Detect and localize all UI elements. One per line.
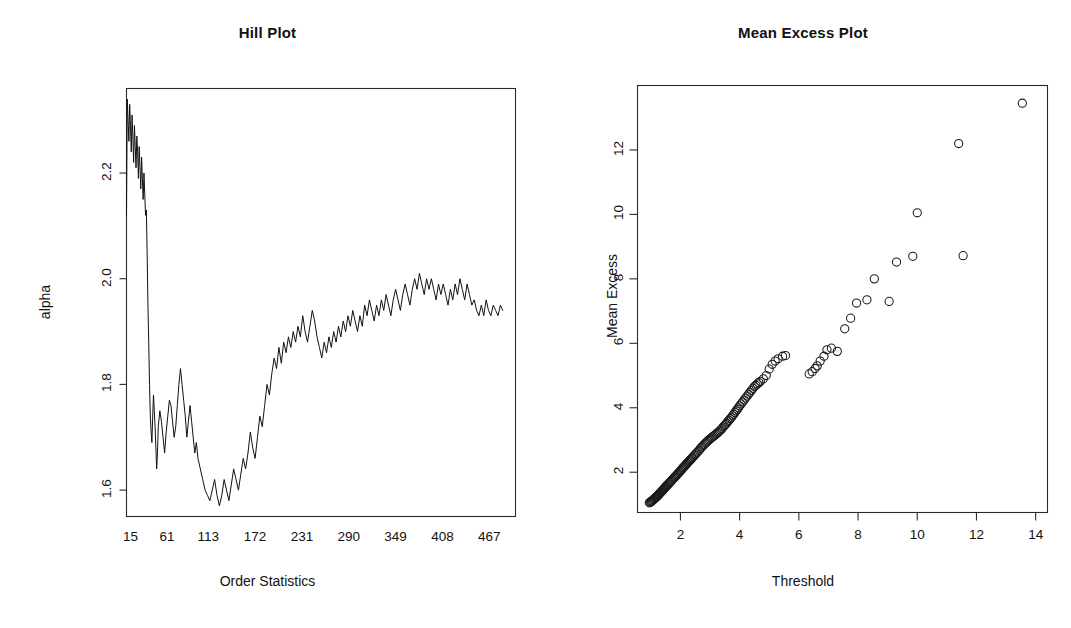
data-point <box>1018 99 1026 107</box>
tick-label: 4 <box>715 527 765 542</box>
tick-label: 12 <box>610 128 625 168</box>
data-point <box>852 299 860 307</box>
data-point <box>955 139 963 147</box>
mean-excess-plot-x-tickmarks <box>680 513 1035 521</box>
tick-label: 6 <box>774 527 824 542</box>
tick-label: 8 <box>833 527 883 542</box>
data-point <box>959 252 967 260</box>
tick-label: 4 <box>610 386 625 426</box>
tick-label: 1.6 <box>98 466 113 512</box>
data-point <box>913 209 921 217</box>
mean-excess-plot-points <box>645 99 1026 507</box>
panel-hill-plot: Hill Plot alpha Order Statistics 1.61.82… <box>0 0 535 628</box>
tick-label: 2 <box>655 527 705 542</box>
tick-label: 8 <box>610 257 625 297</box>
tick-label: 10 <box>610 193 625 233</box>
data-point <box>813 362 821 370</box>
tick-label: 2.0 <box>98 254 113 300</box>
data-point <box>885 297 893 305</box>
data-point <box>870 275 878 283</box>
hill-plot-frame <box>127 89 516 517</box>
data-point <box>841 325 849 333</box>
mean-excess-plot-y-tickmarks <box>630 150 638 472</box>
tick-label: 6 <box>610 322 625 362</box>
hill-plot-curve <box>127 99 503 506</box>
data-point <box>847 314 855 322</box>
tick-label: 14 <box>1011 527 1061 542</box>
panel-mean-excess-plot: Mean Excess Plot Mean Excess Threshold 2… <box>535 0 1071 628</box>
data-point <box>909 252 917 260</box>
tick-label: 2.2 <box>98 149 113 195</box>
data-point <box>863 296 871 304</box>
tick-label: 2 <box>610 451 625 491</box>
tick-label: 1.8 <box>98 360 113 406</box>
tick-label: 467 <box>461 529 517 544</box>
data-point <box>892 258 900 266</box>
data-point <box>765 365 773 373</box>
tick-label: 12 <box>951 527 1001 542</box>
hill-plot-y-tickmarks <box>120 173 127 490</box>
tick-label: 10 <box>892 527 942 542</box>
figure-canvas: Hill Plot alpha Order Statistics 1.61.82… <box>0 0 1071 628</box>
